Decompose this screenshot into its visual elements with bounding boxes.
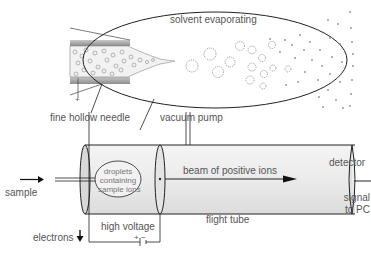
droplets-label: droplets containing sample ions <box>98 167 138 194</box>
detector-label: detector <box>329 158 365 168</box>
flight-tube-label: flight tube <box>206 215 249 225</box>
sample-label: sample <box>5 188 37 198</box>
fine-hollow-needle-label: fine hollow needle <box>50 113 130 123</box>
needle <box>70 28 175 98</box>
signal-label: signal to PC <box>340 192 370 216</box>
mass-spectrometer-diagram <box>0 0 371 255</box>
electrons-label: electrons <box>33 233 74 243</box>
solvent-evaporating-label: solvent evaporating <box>170 15 257 25</box>
ion-dots <box>269 11 354 109</box>
needle-plus-label: + <box>75 96 80 104</box>
polarity-label: + − <box>134 234 146 242</box>
vacuum-pump-label: vacuum pump <box>160 113 223 123</box>
beam-label: beam of positive ions <box>183 166 277 176</box>
evaporating-droplets <box>186 42 291 90</box>
high-voltage-label: high voltage <box>101 222 155 232</box>
